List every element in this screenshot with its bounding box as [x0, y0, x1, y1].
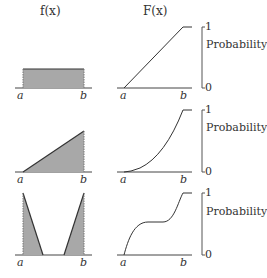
label-a: a [17, 89, 24, 102]
label-a: a [120, 256, 127, 269]
label-one: 1 [205, 20, 212, 33]
pdf-uniform-fill [23, 69, 84, 88]
probability-label: Probability [206, 38, 267, 51]
cdf-linear-curve [124, 27, 192, 88]
label-one: 1 [205, 103, 212, 116]
cdf-s-curve [124, 193, 192, 255]
label-b: b [80, 173, 87, 186]
label-b: b [80, 89, 87, 102]
label-b: b [180, 256, 187, 269]
probability-bracket [202, 110, 205, 172]
pdf-header: f(x) [40, 4, 61, 18]
label-one: 1 [205, 186, 212, 199]
row-uniform [15, 27, 205, 88]
probability-bracket [202, 193, 205, 255]
probability-label: Probability [206, 205, 267, 218]
label-a: a [120, 173, 127, 186]
row-increasing [15, 110, 205, 172]
probability-label: Probability [206, 121, 267, 134]
label-b: b [80, 256, 87, 269]
probability-bracket [202, 27, 205, 88]
label-a: a [17, 256, 24, 269]
label-b: b [180, 173, 187, 186]
cdf-header: F(x) [143, 4, 167, 18]
label-b: b [180, 89, 187, 102]
row-u-shaped [15, 193, 205, 255]
cdf-quadratic-curve [124, 110, 192, 172]
label-zero: 0 [205, 248, 212, 261]
label-a: a [17, 173, 24, 186]
label-zero: 0 [205, 81, 212, 94]
label-zero: 0 [205, 165, 212, 178]
label-a: a [120, 89, 127, 102]
